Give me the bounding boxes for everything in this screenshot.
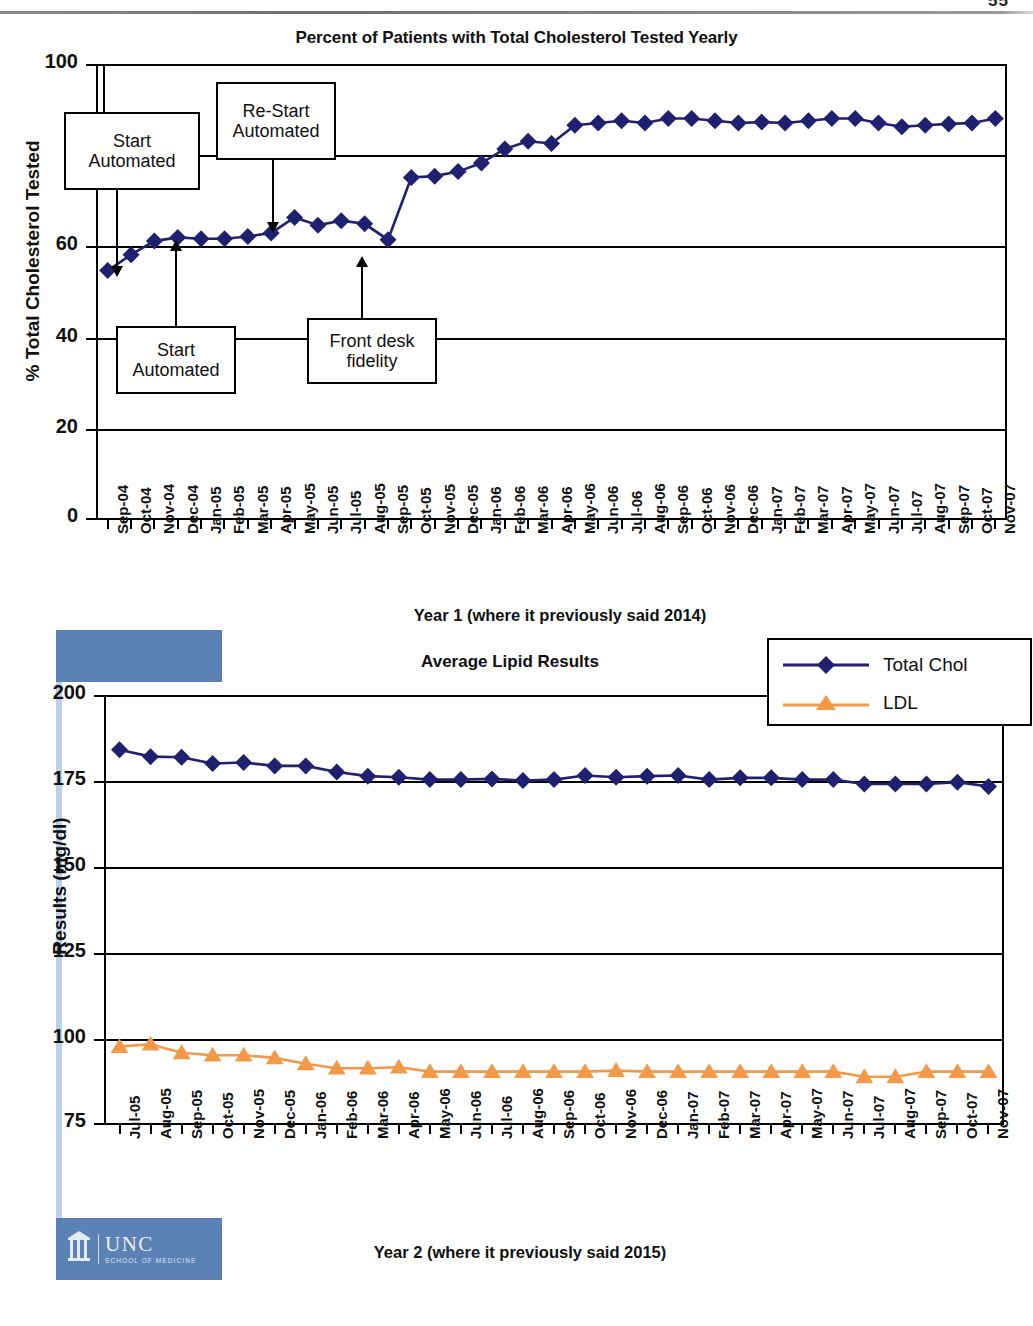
annotation-stem-3	[175, 250, 177, 326]
old-well-icon	[66, 1230, 92, 1268]
chart2-y-tick-mark	[94, 953, 106, 955]
legend-label-ldl: LDL	[883, 692, 918, 714]
chart1-x-tick-label: Feb-07	[791, 486, 808, 534]
chart1-x-tick-label: Jul-06	[628, 491, 645, 534]
chart1-y-tick-label: 0	[16, 504, 78, 527]
chart1-x-tick-mark	[854, 520, 856, 529]
chart1-x-tick-label: Jan-06	[487, 486, 504, 534]
chart1-y-tick-label: 100	[16, 50, 78, 73]
chart1-x-tick-label: Feb-06	[511, 486, 528, 534]
chart2-y-tick-label: 150	[24, 853, 86, 876]
annotation-line: Start	[113, 131, 151, 151]
chart1-x-tick-label: Nov-05	[441, 484, 458, 534]
chart1-x-tick-label: Jan-05	[207, 486, 224, 534]
chart1-x-tick-mark	[807, 520, 809, 529]
legend-item-ldl: LDL	[769, 684, 1030, 722]
chart2-x-tick-mark	[987, 1125, 989, 1134]
chart1-x-tick-mark	[200, 520, 202, 529]
chart2-x-tick-label: Dec-06	[653, 1090, 670, 1139]
chart2-legend: Total Chol LDL	[767, 638, 1032, 726]
chart1-x-tick-label: Jul-07	[908, 491, 925, 534]
chart2-series-svg	[104, 695, 1004, 1125]
chart2-x-tick-label: Apr-07	[777, 1091, 794, 1139]
annotation-stem-1	[116, 190, 118, 268]
chart1-x-tick-mark	[714, 520, 716, 529]
chart1-x-tick-mark	[410, 520, 412, 529]
annotation-start-automated-1: Start Automated	[64, 112, 200, 190]
chart1-x-tick-label: Sep-07	[955, 485, 972, 534]
chart1-y-tick-mark	[86, 64, 98, 66]
chart2-x-tick-mark	[553, 1125, 555, 1134]
chart1-x-tick-mark	[761, 520, 763, 529]
chart1-x-tick-label: Nov-06	[721, 484, 738, 534]
annotation-arrow-2	[267, 222, 279, 233]
chart2-x-tick-mark	[181, 1125, 183, 1134]
chart1-x-tick-label: Jun-06	[604, 486, 621, 534]
chart1-x-tick-label: Aug-05	[371, 483, 388, 534]
chart1-x-tick-label: Oct-05	[417, 487, 434, 534]
chart2-x-tick-mark	[491, 1125, 493, 1134]
chart2-y-tick-mark	[94, 1039, 106, 1041]
chart1-x-tick-mark	[924, 520, 926, 529]
chart1-x-tick-label: Jun-07	[885, 486, 902, 534]
chart1-x-tick-label: Oct-04	[137, 487, 154, 534]
chart2-x-tick-label: Sep-06	[560, 1090, 577, 1139]
chart2-x-tick-label: Oct-05	[219, 1092, 236, 1139]
header-rule	[0, 11, 1033, 14]
chart1-y-tick-label: 20	[16, 415, 78, 438]
chart2-x-tick-label: Nov-05	[250, 1089, 267, 1139]
chart1-x-tick-label: Apr-07	[838, 486, 855, 534]
logo-divider	[98, 1234, 99, 1264]
chart1-x-tick-label: Dec-06	[744, 485, 761, 534]
chart1-x-tick-label: Mar-06	[534, 486, 551, 534]
chart1-x-tick-label: Oct-07	[978, 487, 995, 534]
chart1-x-tick-mark	[597, 520, 599, 529]
chart1-x-tick-mark	[387, 520, 389, 529]
annotation-stem-1b	[103, 64, 105, 112]
annotation-line: Start	[157, 340, 195, 360]
chart1-y-tick-mark	[86, 338, 98, 340]
chart1-title: Percent of Patients with Total Cholester…	[0, 28, 1033, 48]
chart1-x-tick-mark	[574, 520, 576, 529]
chart2-x-tick-mark	[584, 1125, 586, 1134]
chart2-x-tick-label: Oct-07	[963, 1092, 980, 1139]
chart2-x-tick-mark	[150, 1125, 152, 1134]
legend-marker-diamond	[783, 664, 869, 667]
chart2-x-tick-mark	[460, 1125, 462, 1134]
annotation-line: Automated	[232, 121, 319, 141]
chart2-title: Average Lipid Results	[230, 652, 790, 672]
chart1-x-tick-mark	[784, 520, 786, 529]
chart2-y-tick-label: 100	[24, 1025, 86, 1048]
chart2-x-tick-label: Sep-05	[188, 1090, 205, 1139]
chart1-x-tick-mark	[527, 520, 529, 529]
chart2-x-tick-mark	[243, 1125, 245, 1134]
slide-page: 55 Percent of Patients with Total Choles…	[0, 0, 1033, 1326]
chart2-x-tick-mark	[832, 1125, 834, 1134]
chart1-x-tick-mark	[551, 520, 553, 529]
chart1-x-tick-label: Jun-05	[324, 486, 341, 534]
chart1-x-tick-label: Aug-06	[651, 483, 668, 534]
chart2-y-tick-label: 75	[24, 1109, 86, 1132]
chart1-y-tick-label: 40	[16, 324, 78, 347]
legend-marker-triangle	[783, 702, 869, 705]
chart1-x-tick-mark	[901, 520, 903, 529]
chart2-x-tick-mark	[615, 1125, 617, 1134]
chart2-x-tick-mark	[212, 1125, 214, 1134]
annotation-re-start-automated: Re-Start Automated	[216, 82, 336, 160]
chart1-x-tick-mark	[153, 520, 155, 529]
logo-unc-text: UNC	[105, 1234, 196, 1255]
chart1-x-tick-label: Nov-07	[1001, 484, 1018, 534]
chart1-x-tick-mark	[621, 520, 623, 529]
annotation-start-automated-2: Start Automated	[116, 326, 236, 394]
legend-item-total-chol: Total Chol	[769, 646, 1030, 684]
chart1-x-tick-mark	[317, 520, 319, 529]
chart2-x-tick-mark	[677, 1125, 679, 1134]
chart2-x-tick-mark	[274, 1125, 276, 1134]
annotation-line: fidelity	[346, 351, 397, 371]
chart1-x-tick-mark	[667, 520, 669, 529]
chart1-x-tick-mark	[130, 520, 132, 529]
chart2-x-tick-mark	[522, 1125, 524, 1134]
logo-wordmark: UNC SCHOOL OF MEDICINE	[105, 1234, 196, 1264]
chart1-x-axis-label: Year 1 (where it previously said 2014)	[120, 606, 1000, 625]
unc-logo-block: UNC SCHOOL OF MEDICINE	[56, 1218, 222, 1280]
